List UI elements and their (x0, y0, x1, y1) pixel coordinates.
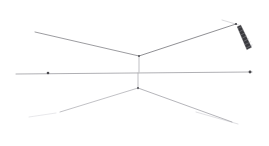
drawing-canvas (0, 0, 269, 146)
wireframe-drawing (0, 0, 269, 146)
node-upper-apex (138, 55, 140, 57)
node-right-axis (249, 71, 252, 74)
node-left-axis (47, 72, 50, 75)
node-lower-apex (137, 87, 139, 89)
node-upper-right-tip (235, 23, 237, 25)
